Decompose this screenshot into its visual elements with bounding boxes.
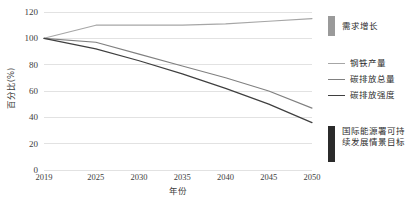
y-tick-label: 60 <box>29 87 38 96</box>
legend-annotation-label: 国际能源署可持续发展情景目标 <box>342 126 407 148</box>
line-swatch-icon <box>328 95 345 96</box>
legend-annotation-label: 需求增长 <box>342 21 378 32</box>
x-tick-label: 2035 <box>174 172 191 182</box>
x-tick-label: 2050 <box>304 172 321 182</box>
legend-item-label: 碳排放总量 <box>350 74 395 84</box>
y-tick-label: 40 <box>29 113 38 122</box>
chart-container: 百分比(%) 020406080100120 20192025203020352… <box>0 0 407 220</box>
series-line-1 <box>44 19 312 39</box>
y-tick-label: 80 <box>29 60 38 69</box>
x-tick-label: 2025 <box>87 172 104 182</box>
legend-item-1: 钢铁产量 <box>328 58 395 68</box>
line-swatch-icon <box>328 79 345 80</box>
x-tick-label: 2040 <box>217 172 234 182</box>
x-tick-label: 2030 <box>131 172 148 182</box>
legend-item-3: 碳排放强度 <box>328 90 395 100</box>
series-line-3 <box>44 38 312 122</box>
legend-series: 钢铁产量碳排放总量碳排放强度 <box>328 58 395 100</box>
y-tick-label: 20 <box>29 139 38 148</box>
x-axis-tick-labels: 2019202520302035204020452050 <box>44 172 312 186</box>
legend-annotation-iea-sds-target: 国际能源署可持续发展情景目标 <box>328 126 407 162</box>
y-tick-label: 120 <box>25 8 39 17</box>
legend-item-label: 碳排放强度 <box>350 90 395 100</box>
legend-item-2: 碳排放总量 <box>328 74 395 84</box>
plot-area <box>44 12 312 170</box>
line-swatch-icon <box>328 63 345 64</box>
y-axis-tick-labels: 020406080100120 <box>0 12 42 170</box>
x-tick-label: 2019 <box>36 172 53 182</box>
legend-annotation-demand-growth: 需求增长 <box>328 16 378 36</box>
legend-item-label: 钢铁产量 <box>350 58 386 68</box>
x-axis-title: 年份 <box>44 186 312 196</box>
x-tick-label: 2045 <box>260 172 277 182</box>
vertical-bar-icon <box>328 16 335 36</box>
series-lines <box>44 12 312 170</box>
y-tick-label: 100 <box>25 34 39 43</box>
series-line-2 <box>44 38 312 108</box>
vertical-bar-icon <box>328 126 335 162</box>
